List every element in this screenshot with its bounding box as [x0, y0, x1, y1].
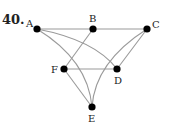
label-f: F [51, 64, 58, 75]
problem-number: 40. [2, 12, 25, 27]
graph-diagram: 40. A B C F D E [0, 0, 170, 128]
label-a: A [25, 18, 34, 29]
label-e: E [88, 113, 95, 124]
label-c: C [152, 19, 160, 30]
label-b: B [89, 13, 96, 24]
label-d: D [114, 75, 122, 86]
node-d [113, 65, 120, 72]
node-e [88, 103, 95, 110]
node-c [143, 25, 150, 32]
node-a [33, 25, 40, 32]
node-f [60, 65, 67, 72]
edge-a-d [37, 29, 117, 69]
edge-b-f [64, 29, 93, 69]
node-b [89, 25, 96, 32]
